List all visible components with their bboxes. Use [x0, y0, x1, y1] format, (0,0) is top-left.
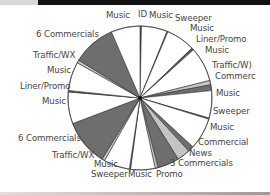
slice-label: 3 Commercials: [170, 159, 233, 168]
slice-label: Music: [210, 123, 234, 132]
slice-label: Traffic/W): [212, 61, 252, 70]
slice-label: Music: [149, 11, 173, 20]
slice-label: Sweeper: [175, 14, 212, 23]
slice-label: News: [189, 149, 212, 158]
slice-label: Music: [94, 160, 118, 169]
slice-label: Sweeper: [91, 170, 128, 179]
slice-label: ID: [138, 10, 147, 19]
slice-label: Liner/Promo: [20, 82, 71, 91]
slice-label: Music: [205, 46, 229, 55]
slice-label: Traffic/WX: [33, 51, 75, 60]
slice-label: Traffic/WX: [52, 151, 94, 160]
slice-label: Music: [42, 97, 66, 106]
slice-label: Music: [190, 24, 214, 33]
slice-label: Music: [47, 66, 71, 75]
slice-label: 6 Commercials: [36, 30, 99, 39]
pie-center: [138, 96, 142, 100]
slice-label: Music: [216, 89, 240, 98]
slice-label: Music: [128, 170, 152, 179]
slice-label: Music: [106, 11, 130, 20]
slice-label: 6 Commercials: [18, 134, 81, 143]
bottom-bar: [0, 192, 270, 195]
slice-label: Commerc: [215, 72, 256, 81]
slice-label: Commercial: [198, 138, 248, 147]
slice-label: Sweeper: [213, 107, 250, 116]
slice-label: Liner/Promo: [196, 35, 247, 44]
slice-label: Promo: [156, 170, 183, 179]
